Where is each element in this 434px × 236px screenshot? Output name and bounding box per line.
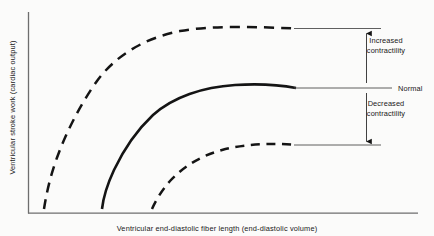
curve-normal <box>102 84 296 209</box>
annotation-decreased-contractility: Decreased contractility <box>340 99 432 118</box>
annotation-normal: Normal <box>398 84 422 93</box>
curve-decreased-contractility <box>152 144 296 209</box>
x-axis-title: Ventricular end-diastolic fiber length (… <box>0 224 434 233</box>
annotation-increased-line1: Increased <box>340 36 432 46</box>
figure-container: Ventricular stroke work (cardiac output)… <box>0 0 434 236</box>
y-axis-title-container: Ventricular stroke work (cardiac output) <box>0 0 24 214</box>
annotation-decreased-line1: Decreased <box>340 99 432 109</box>
y-axis-title: Ventricular stroke work (cardiac output) <box>8 40 17 174</box>
annotation-increased-line2: contractility <box>340 46 432 56</box>
annotation-decreased-line2: contractility <box>340 109 432 119</box>
annotation-increased-contractility: Increased contractility <box>340 36 432 55</box>
